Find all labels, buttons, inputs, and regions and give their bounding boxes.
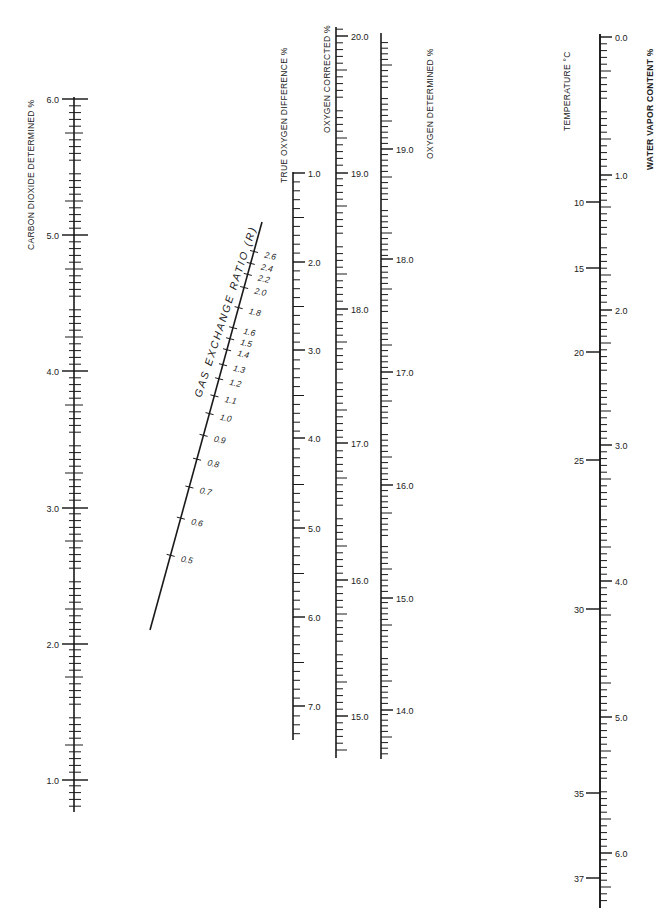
- scales-layer: 6.05.04.03.02.01.02.62.42.22.01.81.61.51…: [46, 27, 627, 908]
- r-tick-label: 1.0: [219, 412, 233, 424]
- r-tick-label: 1.4: [237, 348, 251, 360]
- true-oxygen-difference-tick-label: 5.0: [308, 524, 321, 534]
- true-oxygen-difference-scale: 1.02.03.04.05.06.07.0: [293, 169, 321, 741]
- oxygen-corrected-title: OXYGEN CORRECTED %: [322, 25, 332, 133]
- water-vapor-content-tick-label: 1.0: [615, 171, 628, 181]
- r-tick-label: 0.5: [180, 554, 194, 566]
- r-tick-label: 1.5: [240, 337, 254, 349]
- r-tick-label: 2.4: [259, 261, 274, 274]
- r-tick-label: 1.2: [229, 377, 243, 389]
- r-tick-label: 0.9: [213, 434, 227, 446]
- oxygen-determined-tick-label: 19.0: [396, 145, 414, 155]
- temperature-tick-label: 37: [574, 874, 584, 884]
- temperature-tick-label: 20: [574, 348, 584, 358]
- oxygen-determined-tick-label: 14.0: [396, 706, 414, 716]
- r-tick-label: 1.3: [232, 363, 246, 375]
- co2-scale-title: CARBON DIOXIDE DETERMINED %: [26, 100, 36, 250]
- r-tick-label: 1.6: [243, 326, 257, 338]
- true-oxygen-difference-tick-label: 3.0: [308, 346, 321, 356]
- oxygen-corrected-tick-label: 19.0: [351, 169, 369, 179]
- true-oxygen-difference-tick-label: 6.0: [308, 613, 321, 623]
- co2-determined-tick-label: 2.0: [46, 640, 59, 650]
- true-oxygen-difference-tick-label: 2.0: [308, 258, 321, 268]
- co2-determined-tick-label: 6.0: [46, 95, 59, 105]
- water-vapor-content-scale: 0.01.02.03.04.05.06.0: [600, 33, 628, 909]
- oxygen-corrected-tick-label: 17.0: [351, 439, 369, 449]
- oxygen-determined-tick-label: 15.0: [396, 594, 414, 604]
- water-vapor-content-tick-label: 5.0: [615, 713, 628, 723]
- true-oxygen-difference-tick-label: 7.0: [308, 702, 321, 712]
- oxygen-determined-tick-label: 17.0: [396, 368, 414, 378]
- nomogram: CARBON DIOXIDE DETERMINED % GAS EXCHANGE…: [0, 0, 670, 919]
- co2-determined-scale: 6.05.04.03.02.01.0: [46, 95, 88, 813]
- r-tick-label: 1.1: [224, 394, 238, 406]
- oxygen-determined-tick-label: 16.0: [396, 481, 414, 491]
- co2-determined-tick-label: 3.0: [46, 504, 59, 514]
- temperature-tick-label: 15: [574, 264, 584, 274]
- co2-determined-tick-label: 5.0: [46, 231, 59, 241]
- r-tick-label: 0.8: [206, 457, 220, 469]
- true-oxygen-difference-tick-label: 1.0: [308, 169, 321, 179]
- oxygen-corrected-tick-label: 16.0: [351, 576, 369, 586]
- r-tick-label: 2.6: [263, 249, 278, 262]
- oxygen-corrected-tick-label: 20.0: [351, 32, 369, 42]
- temperature-scale: 10152025303537: [574, 34, 600, 908]
- temperature-tick-label: 25: [574, 456, 584, 466]
- water-vapor-content-tick-label: 4.0: [615, 577, 628, 587]
- r-tick-label: 2.2: [256, 272, 271, 285]
- co2-determined-tick-label: 1.0: [46, 776, 59, 786]
- oxygen-corrected-tick-label: 18.0: [351, 305, 369, 315]
- water-vapor-content-tick-label: 6.0: [615, 849, 628, 859]
- r-tick-label: 0.6: [190, 516, 204, 528]
- water-vapor-content-tick-label: 2.0: [615, 306, 628, 316]
- r-tick-label: 1.8: [248, 306, 262, 318]
- temperature-tick-label: 10: [574, 198, 584, 208]
- temperature-tick-label: 30: [574, 605, 584, 615]
- true-oxygen-difference-title: TRUE OXYGEN DIFFERENCE %: [279, 47, 289, 183]
- gas-exchange-ratio-scale: 2.62.42.22.01.81.61.51.41.31.21.11.00.90…: [150, 222, 277, 630]
- true-oxygen-difference-tick-label: 4.0: [308, 434, 321, 444]
- oxygen-determined-tick-label: 18.0: [396, 255, 414, 265]
- water-vapor-title: WATER VAPOR CONTENT %: [645, 48, 655, 170]
- r-tick-label: 0.7: [199, 485, 213, 497]
- water-vapor-content-tick-label: 0.0: [615, 33, 628, 43]
- oxygen-corrected-tick-label: 15.0: [351, 712, 369, 722]
- r-tick-label: 2.0: [253, 286, 268, 299]
- temperature-tick-label: 35: [574, 789, 584, 799]
- water-vapor-content-tick-label: 3.0: [615, 441, 628, 451]
- oxygen-determined-scale: 19.018.017.016.015.014.0: [381, 33, 414, 759]
- temperature-title: TEMPERATURE °C: [562, 51, 572, 131]
- co2-determined-tick-label: 4.0: [46, 367, 59, 377]
- oxygen-determined-title: OXYGEN DETERMINED %: [425, 48, 435, 159]
- gas-exchange-ratio-axis-line: [150, 222, 262, 630]
- oxygen-corrected-scale: 20.019.018.017.016.015.0: [336, 27, 369, 758]
